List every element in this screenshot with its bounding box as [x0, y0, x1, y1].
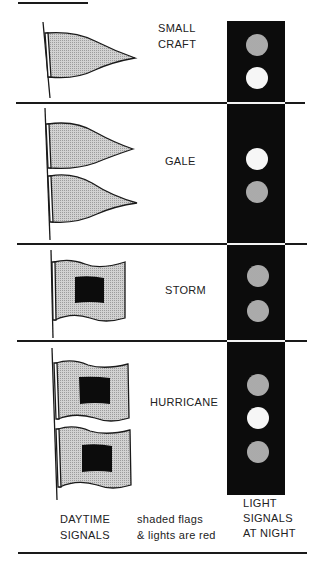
- caption-line: SIGNALS: [60, 527, 110, 543]
- hurricane-label: HURRICANE: [150, 395, 218, 409]
- label-line: SMALL: [158, 21, 196, 35]
- small-craft-label: SMALL CRAFT: [158, 21, 196, 51]
- caption-line: LIGHT: [243, 496, 296, 511]
- label-line: HURRICANE: [150, 395, 218, 409]
- caption-line: & lights are red: [137, 527, 216, 543]
- label-line: GALE: [165, 154, 196, 168]
- small-craft-pennant-icon: [43, 22, 135, 98]
- storm-label: STORM: [165, 283, 206, 297]
- daytime-signals-caption: DAYTIME SIGNALS: [60, 511, 110, 543]
- hurricane-flags-icon: [52, 348, 131, 500]
- gale-pennants-icon: [45, 108, 137, 240]
- caption-line: DAYTIME: [60, 511, 110, 527]
- daytime-flags-drawing: [0, 0, 322, 562]
- color-legend-caption: shaded flags & lights are red: [137, 511, 216, 543]
- caption-line: SIGNALS: [243, 511, 296, 526]
- label-line: CRAFT: [158, 37, 196, 51]
- label-line: STORM: [165, 283, 206, 297]
- caption-line: AT NIGHT: [243, 526, 296, 541]
- night-signals-caption: LIGHT SIGNALS AT NIGHT: [243, 496, 296, 541]
- caption-line: shaded flags: [137, 511, 216, 527]
- storm-flag-icon: [51, 250, 125, 338]
- gale-label: GALE: [165, 154, 196, 168]
